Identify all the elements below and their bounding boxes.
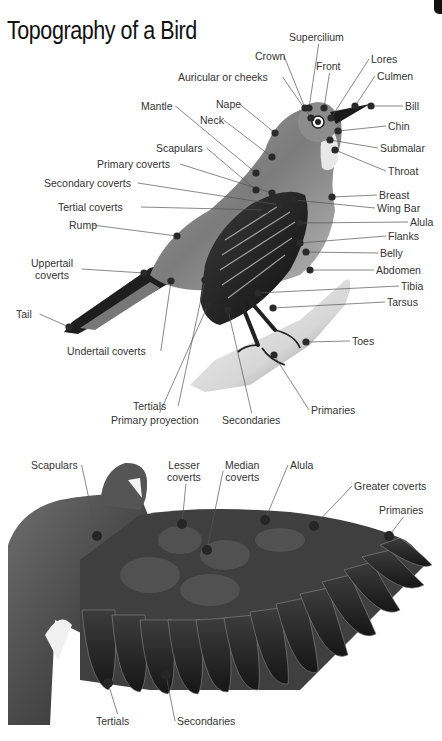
marker-dot-toes <box>302 338 309 345</box>
leader-line-rump <box>93 225 177 236</box>
leader-line-tail <box>40 314 69 327</box>
marker-dot-secondaries <box>161 670 171 680</box>
label-breast: Breast <box>379 189 409 201</box>
label-crown: Crown <box>255 50 285 62</box>
label-toes: Toes <box>352 335 374 347</box>
label-neck: Neck <box>200 114 224 126</box>
label-lores: Lores <box>371 53 397 65</box>
label-belly: Belly <box>380 247 403 259</box>
leader-line-uppertail-coverts <box>82 269 144 273</box>
label-bill: Bill <box>405 100 419 112</box>
marker-dot-crown <box>301 104 308 111</box>
leader-line-front <box>324 73 330 108</box>
marker-dot-chin <box>334 127 341 134</box>
marker-dot-nape <box>271 129 278 136</box>
label-throat: Throat <box>388 165 418 177</box>
marker-dot-scapulars <box>92 531 102 541</box>
marker-dot-tertials <box>103 678 113 688</box>
marker-dot-tail <box>65 323 72 330</box>
label-tertial-coverts: Tertial coverts <box>58 201 123 213</box>
leader-line-primary-proyection <box>160 305 208 413</box>
label-alula: Alula <box>290 459 313 471</box>
label-abdomen: Abdomen <box>376 264 421 276</box>
marker-dot-tibia <box>254 289 261 296</box>
marker-dot-scapulars <box>252 186 259 193</box>
label-primary-coverts: Primary coverts <box>97 158 170 170</box>
marker-dot-tertial-coverts <box>261 206 268 213</box>
marker-dot-lesser-coverts <box>177 519 187 529</box>
label-front: Front <box>316 60 341 72</box>
label-tertials: Tertials <box>96 715 129 727</box>
label-primary-proyection: Primary proyection <box>111 414 199 426</box>
leader-line-supercilium <box>309 44 319 108</box>
marker-dot-primaries <box>384 531 394 541</box>
leader-line-culmen <box>355 76 375 106</box>
label-tail: Tail <box>16 308 32 320</box>
label-auricular: Auricular or cheeks <box>178 71 268 83</box>
label-flanks: Flanks <box>388 230 419 242</box>
leader-line-chin <box>338 126 386 131</box>
label-secondaries: Secondaries <box>222 414 280 426</box>
marker-dot-submalar <box>326 136 333 143</box>
label-median-coverts: Mediancoverts <box>225 459 259 483</box>
label-greater-coverts: Greater coverts <box>354 480 426 492</box>
leader-line-primaries <box>274 355 309 410</box>
leader-line-scapulars <box>207 148 256 190</box>
label-tarsus: Tarsus <box>387 296 418 308</box>
leader-line-crown <box>284 56 305 108</box>
label-undertail-coverts: Undertail coverts <box>67 345 146 357</box>
marker-dot-median-coverts <box>202 545 212 555</box>
marker-dot-rump <box>173 232 180 239</box>
marker-dot-greater-coverts <box>309 521 319 531</box>
label-uppertail-coverts: Uppertailcoverts <box>31 257 73 281</box>
label-rump: Rump <box>69 219 97 231</box>
marker-dot-secondaries <box>224 306 231 313</box>
leader-line-nape <box>240 104 275 133</box>
bird-topography-diagram: Topography of a Bird <box>0 0 442 741</box>
marker-dot-breast <box>328 193 335 200</box>
marker-dot-primaries <box>270 351 277 358</box>
marker-dot-tertials <box>201 276 208 283</box>
leader-line-undertail-coverts <box>161 281 171 351</box>
label-secondaries: Secondaries <box>177 715 235 727</box>
label-supercilium: Supercilium <box>289 31 344 43</box>
marker-dot-primary-proyection <box>204 301 211 308</box>
label-submalar: Submalar <box>380 142 425 154</box>
marker-dot-abdomen <box>306 266 313 273</box>
marker-dot-primary-coverts <box>268 189 275 196</box>
label-nape: Nape <box>216 98 241 110</box>
marker-dot-uppertail-coverts <box>140 269 147 276</box>
marker-dot-secondary-coverts <box>276 201 283 208</box>
marker-dot-wing-bar <box>290 196 297 203</box>
label-secondary-coverts: Secondary coverts <box>44 177 131 189</box>
marker-dot-tarsus <box>269 304 276 311</box>
label-scapulars: Scapulars <box>156 142 203 154</box>
marker-dot-throat <box>331 146 338 153</box>
label-culmen: Culmen <box>377 70 413 82</box>
marker-dot-front <box>320 104 327 111</box>
marker-dot-belly <box>302 248 309 255</box>
marker-dot-mantle <box>252 169 259 176</box>
marker-dot-undertail-coverts <box>167 277 174 284</box>
marker-dot-auricular <box>307 114 314 121</box>
label-primaries: Primaries <box>311 404 355 416</box>
label-wing-bar: Wing Bar <box>377 202 420 214</box>
label-lesser-coverts: Lessercoverts <box>167 459 201 483</box>
bird-illustrations <box>0 0 442 741</box>
label-tertials: Tertials <box>133 400 166 412</box>
marker-dot-alula <box>296 219 303 226</box>
label-alula: Alula <box>410 216 433 228</box>
label-mantle: Mantle <box>141 100 173 112</box>
label-scapulars: Scapulars <box>31 459 78 471</box>
leader-line-tibia <box>258 286 399 293</box>
leader-line-breast <box>332 195 377 197</box>
marker-dot-lores <box>327 114 334 121</box>
marker-dot-bill <box>367 102 374 109</box>
marker-dot-culmen <box>351 102 358 109</box>
leader-line-neck <box>224 120 272 157</box>
label-tibia: Tibia <box>401 280 423 292</box>
pigeon-wing <box>8 463 432 725</box>
leader-line-throat <box>335 150 386 171</box>
marker-dot-neck <box>268 153 275 160</box>
label-chin: Chin <box>388 120 410 132</box>
